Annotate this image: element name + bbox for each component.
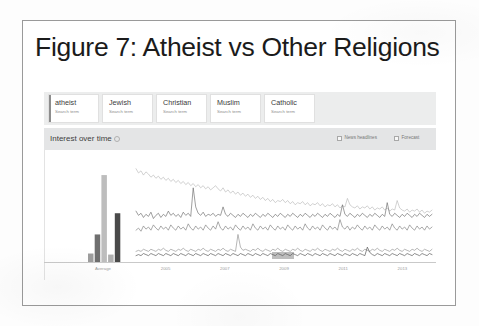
average-bar-christian[interactable] <box>101 175 107 262</box>
search-term-label: Muslim <box>217 99 260 107</box>
search-term-subtitle: Search term <box>163 109 206 114</box>
search-term-chip-christian[interactable]: ChristianSearch term <box>156 94 207 123</box>
average-bar-jewish[interactable] <box>95 234 101 262</box>
interest-over-time-chart[interactable]: Average 20052007200920112013 <box>44 150 436 290</box>
forecast-checkbox[interactable] <box>394 136 399 141</box>
search-terms-strip: atheistSearch termJewishSearch termChris… <box>44 92 436 125</box>
series-line-christian[interactable] <box>136 169 432 214</box>
search-term-chip-catholic[interactable]: CatholicSearch term <box>264 94 315 123</box>
forecast-toggle[interactable]: Forecast <box>394 135 419 141</box>
search-term-chip-muslim[interactable]: MuslimSearch term <box>210 94 261 123</box>
search-term-label: Christian <box>163 99 206 107</box>
section-heading: Interest over time <box>50 134 112 144</box>
search-term-label: Catholic <box>271 99 314 107</box>
x-axis-tick-2011: 2011 <box>331 266 355 272</box>
page-title: Figure 7: Atheist vs Other Religions <box>35 30 447 64</box>
forecast-label: Forecast <box>402 135 420 141</box>
x-axis-tick-2007: 2007 <box>213 266 237 272</box>
search-term-label: Jewish <box>109 99 152 107</box>
average-axis-label: Average <box>82 266 124 272</box>
news-headlines-checkbox[interactable] <box>337 136 342 141</box>
x-axis-tick-2013: 2013 <box>390 266 414 272</box>
search-term-subtitle: Search term <box>271 109 314 114</box>
search-term-chip-atheist[interactable]: atheistSearch term <box>48 94 99 123</box>
x-axis-tick-2005: 2005 <box>154 266 178 272</box>
series-line-jewish[interactable] <box>136 188 432 219</box>
google-trends-screenshot: atheistSearch termJewishSearch termChris… <box>44 92 436 290</box>
search-term-subtitle: Search term <box>217 109 260 114</box>
search-term-subtitle: Search term <box>109 109 152 114</box>
series-line-atheist[interactable] <box>136 234 432 251</box>
scanned-page: Figure 7: Atheist vs Other Religions ath… <box>0 0 479 326</box>
search-term-subtitle: Search term <box>55 109 98 114</box>
figure-frame: Figure 7: Atheist vs Other Religions ath… <box>22 20 456 306</box>
news-headlines-toggle[interactable]: News headlines <box>337 135 377 141</box>
x-axis-tick-2009: 2009 <box>272 266 296 272</box>
interest-over-time-header: Interest over time News headlines Foreca… <box>44 128 436 150</box>
news-headlines-label: News headlines <box>345 135 377 141</box>
info-icon[interactable] <box>114 136 120 142</box>
average-bar-catholic[interactable] <box>115 213 121 262</box>
baseline-artifact <box>272 252 294 259</box>
search-term-chip-jewish[interactable]: JewishSearch term <box>102 94 153 123</box>
average-bar-atheist[interactable] <box>88 254 94 262</box>
search-terms-row: atheistSearch termJewishSearch termChris… <box>48 94 315 123</box>
average-bar-muslim[interactable] <box>108 255 114 262</box>
series-line-muslim[interactable] <box>136 220 432 232</box>
search-term-label: atheist <box>55 99 98 107</box>
